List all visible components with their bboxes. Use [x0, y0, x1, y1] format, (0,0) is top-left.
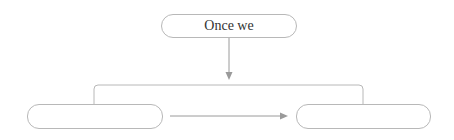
flow-diagram: Once we — [0, 0, 454, 140]
node-left — [27, 104, 163, 129]
node-top-label: Once we — [204, 18, 253, 34]
arrowhead-right-icon — [280, 113, 288, 120]
arrowhead-down-icon — [226, 72, 233, 80]
node-right — [296, 104, 431, 129]
node-top: Once we — [161, 14, 297, 38]
